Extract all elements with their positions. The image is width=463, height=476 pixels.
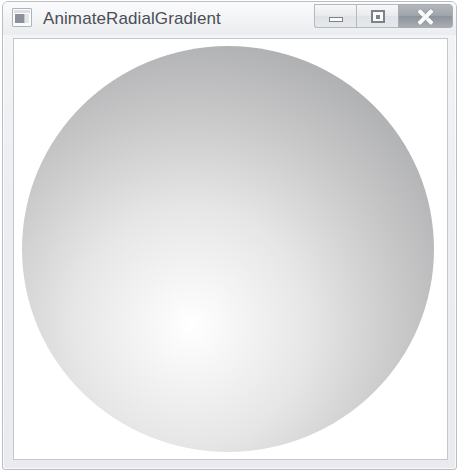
window-form-icon[interactable] [12, 8, 32, 27]
close-icon [417, 9, 434, 24]
window-controls [314, 4, 453, 28]
title-bar[interactable]: AnimateRadialGradient [3, 2, 456, 35]
window-form-icon-block [15, 14, 24, 23]
minimize-button[interactable] [314, 4, 356, 28]
radial-gradient-ellipse [22, 46, 434, 452]
client-area [13, 38, 448, 460]
close-button[interactable] [398, 4, 453, 28]
minimize-icon [329, 17, 343, 22]
window-form-icon-titlebar [14, 10, 30, 13]
maximize-button[interactable] [356, 4, 398, 28]
application-window: AnimateRadialGradient [2, 1, 457, 470]
window-title: AnimateRadialGradient [43, 2, 221, 35]
maximize-icon [371, 10, 385, 23]
window-form-icon-panel [24, 14, 29, 23]
